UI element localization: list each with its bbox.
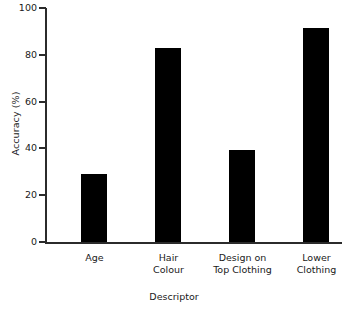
y-axis-title: Accuracy (%)	[10, 69, 21, 179]
y-tick-label: 100	[0, 3, 37, 13]
bar	[303, 28, 329, 242]
y-tick-mark	[39, 7, 46, 9]
y-axis-line	[45, 8, 47, 244]
y-tick-label: 80	[0, 50, 37, 60]
y-tick-label: 0	[0, 237, 37, 247]
y-tick-mark	[39, 194, 46, 196]
y-tick-label: 60	[0, 97, 37, 107]
bar	[81, 174, 107, 242]
y-tick-mark	[39, 54, 46, 56]
y-tick-label: 20	[0, 190, 37, 200]
bar	[229, 150, 255, 242]
x-axis-title: Descriptor	[0, 291, 348, 302]
bar-chart: Accuracy (%) 020406080100 AgeHair Colour…	[0, 0, 348, 309]
y-tick-mark	[39, 147, 46, 149]
x-axis-line	[45, 242, 342, 244]
y-tick-mark	[39, 241, 46, 243]
x-category-label: Lower Clothing	[271, 252, 348, 275]
bar	[155, 48, 181, 242]
y-tick-label: 40	[0, 143, 37, 153]
y-tick-mark	[39, 101, 46, 103]
